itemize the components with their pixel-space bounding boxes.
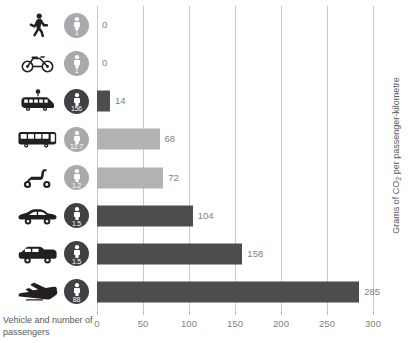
x-tick-label-50: 50: [138, 318, 149, 329]
passenger-count-badge: 1: [64, 51, 89, 76]
passenger-count-value: 1.5: [64, 258, 89, 265]
row-icon-group: 12.7: [0, 120, 97, 158]
bar-value-label: 285: [364, 287, 380, 297]
x-tick-300: [373, 311, 374, 315]
tram-icon: [18, 88, 58, 114]
x-tick-150: [235, 311, 236, 315]
row-icon-group: 1: [0, 6, 97, 44]
chart-rows: 10101561412.7681.2721.51041.515888285: [0, 6, 409, 311]
scooter-icon: [18, 165, 58, 191]
row-icon-group: 1: [0, 44, 97, 82]
bar-value-label: 14: [115, 96, 126, 106]
x-tick-label-0: 0: [94, 318, 99, 329]
airplane-icon: [18, 279, 58, 305]
suv-icon: [18, 241, 58, 267]
pedestrian-icon: [18, 12, 58, 38]
passenger-count-badge: 1: [64, 13, 89, 38]
x-tick-50: [143, 311, 144, 315]
x-tick-200: [281, 311, 282, 315]
row-icon-group: 88: [0, 273, 97, 311]
row-icon-group: 1.5: [0, 197, 97, 235]
chart-row: 10: [0, 6, 409, 44]
row-icon-group: 1.5: [0, 235, 97, 273]
chart-row: 1.5104: [0, 197, 409, 235]
bicycle-icon: [18, 50, 58, 76]
bar: [97, 243, 242, 264]
y-axis-caption-subscript: 2: [394, 177, 401, 181]
bar-value-label: 72: [168, 173, 179, 183]
x-tick-250: [327, 311, 328, 315]
bar-value-label: 0: [102, 58, 107, 68]
x-tick-100: [189, 311, 190, 315]
passenger-count-badge: 1.5: [64, 241, 89, 266]
passenger-count-badge: 88: [64, 279, 89, 304]
passenger-count-value: 1: [64, 29, 89, 36]
x-tick-label-100: 100: [181, 318, 197, 329]
y-axis-caption: Grams of CO2 per passenger-kilometre: [385, 0, 407, 311]
bar-value-label: 158: [247, 249, 263, 259]
passenger-count-value: 1: [64, 67, 89, 74]
car-icon: [18, 203, 58, 229]
chart-row: 10: [0, 44, 409, 82]
x-tick-0: [97, 311, 98, 315]
bar-value-label: 0: [102, 20, 107, 30]
passenger-count-value: 88: [64, 296, 89, 303]
bar-value-label: 104: [198, 211, 214, 221]
x-tick-label-200: 200: [273, 318, 289, 329]
x-tick-label-250: 250: [319, 318, 335, 329]
bar: [97, 129, 160, 150]
y-axis-caption-prefix: Grams of CO: [391, 181, 401, 234]
passenger-count-badge: 1.2: [64, 165, 89, 190]
x-tick-label-300: 300: [365, 318, 381, 329]
passenger-count-value: 156: [64, 105, 89, 112]
passenger-count-badge: 1.5: [64, 203, 89, 228]
bar: [97, 205, 193, 226]
bus-icon: [18, 126, 58, 152]
passenger-count-badge: 156: [64, 89, 89, 114]
passenger-count-value: 1.5: [64, 220, 89, 227]
row-icon-group: 1.2: [0, 159, 97, 197]
x-axis: 050100150200250300: [97, 311, 373, 333]
bar: [97, 281, 359, 302]
bar-value-label: 68: [165, 134, 176, 144]
passenger-count-value: 12.7: [64, 143, 89, 150]
co2-emissions-bar-chart: 10101561412.7681.2721.51041.515888285 05…: [0, 0, 409, 343]
chart-row: 88285: [0, 273, 409, 311]
bar: [97, 167, 163, 188]
y-axis-caption-suffix: per passenger-kilometre: [391, 77, 401, 177]
chart-row: 1.5158: [0, 235, 409, 273]
row-icon-group: 156: [0, 82, 97, 120]
chart-row: 15614: [0, 82, 409, 120]
x-tick-label-150: 150: [227, 318, 243, 329]
x-axis-caption: Vehicle and number of passengers: [3, 315, 95, 338]
passenger-count-badge: 12.7: [64, 127, 89, 152]
chart-row: 1.272: [0, 159, 409, 197]
bar: [97, 91, 110, 112]
passenger-count-value: 1.2: [64, 182, 89, 189]
chart-row: 12.768: [0, 120, 409, 158]
